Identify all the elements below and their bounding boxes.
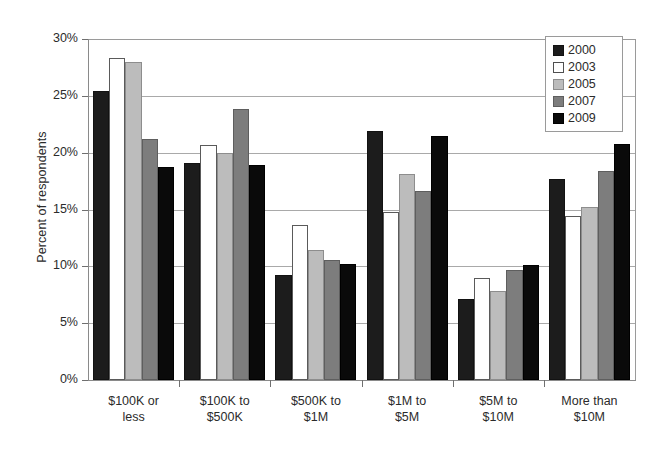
bar xyxy=(490,291,506,380)
y-axis-tick-label: 20% xyxy=(32,146,78,159)
x-axis-tick xyxy=(453,380,454,387)
legend-item[interactable]: 2000 xyxy=(553,42,616,58)
legend-item[interactable]: 2009 xyxy=(553,110,616,126)
y-axis-tick-label: 15% xyxy=(32,203,78,216)
x-axis-tick xyxy=(270,380,271,387)
x-axis-category-label: $100K to$500K xyxy=(179,394,270,425)
x-axis-category-label-line: More than xyxy=(544,394,635,410)
y-axis-tick-label: 0% xyxy=(32,373,78,386)
legend[interactable]: 20002003200520072009 xyxy=(545,36,623,132)
bar xyxy=(383,212,399,380)
x-axis-category-label-line: $10M xyxy=(544,410,635,426)
y-axis-tick-label: 10% xyxy=(32,259,78,272)
bar xyxy=(275,275,291,380)
x-axis-category-label-line: $500K to xyxy=(270,394,361,410)
bar xyxy=(565,216,581,380)
bar xyxy=(581,207,597,380)
bar xyxy=(367,131,383,380)
legend-item-label: 2000 xyxy=(568,44,596,57)
bar xyxy=(200,145,216,380)
bar xyxy=(184,163,200,380)
x-axis-category-label-line: $1M to xyxy=(362,394,453,410)
bar xyxy=(431,136,447,380)
y-axis-tick-label: 30% xyxy=(32,32,78,45)
bar xyxy=(474,278,490,380)
legend-item[interactable]: 2005 xyxy=(553,76,616,92)
bar xyxy=(217,153,233,380)
bar xyxy=(523,265,539,380)
x-axis-category-label-line: $5M xyxy=(362,410,453,426)
y-axis-tick-label: 5% xyxy=(32,316,78,329)
x-axis-tick xyxy=(179,380,180,387)
x-axis-tick xyxy=(362,380,363,387)
x-axis-category-label: More than$10M xyxy=(544,394,635,425)
x-axis-category-label-line: $1M xyxy=(270,410,361,426)
legend-item[interactable]: 2003 xyxy=(553,59,616,75)
bar xyxy=(125,62,141,380)
bar xyxy=(292,225,308,380)
x-axis-category-label-line: $500K xyxy=(179,410,270,426)
legend-item-label: 2009 xyxy=(568,112,596,125)
legend-item-label: 2005 xyxy=(568,78,596,91)
legend-item[interactable]: 2007 xyxy=(553,93,616,109)
x-axis-category-label-line: $100K to xyxy=(179,394,270,410)
x-axis-category-label: $500K to$1M xyxy=(270,394,361,425)
legend-swatch-icon xyxy=(553,79,564,90)
bar xyxy=(142,139,158,380)
bar xyxy=(340,264,356,380)
bar xyxy=(249,165,265,380)
bar xyxy=(399,174,415,380)
bar xyxy=(598,171,614,380)
legend-swatch-icon xyxy=(553,113,564,124)
x-axis-category-label: $100K orless xyxy=(88,394,179,425)
x-axis-category-label-line: $5M to xyxy=(453,394,544,410)
bar xyxy=(109,58,125,380)
bar xyxy=(308,250,324,380)
x-axis-category-label-line: $10M xyxy=(453,410,544,426)
bar xyxy=(614,144,630,380)
bar xyxy=(506,270,522,380)
bar xyxy=(93,91,109,380)
bar xyxy=(458,299,474,380)
x-axis-category-label-line: $100K or xyxy=(88,394,179,410)
x-axis-category-label: $5M to$10M xyxy=(453,394,544,425)
legend-item-label: 2003 xyxy=(568,61,596,74)
legend-swatch-icon xyxy=(553,45,564,56)
bar xyxy=(324,260,340,380)
x-axis-category-label-line: less xyxy=(88,410,179,426)
x-axis-category-label: $1M to$5M xyxy=(362,394,453,425)
bar xyxy=(158,167,174,380)
bar xyxy=(233,109,249,380)
bar xyxy=(549,179,565,380)
legend-item-label: 2007 xyxy=(568,95,596,108)
y-axis-tick-label: 25% xyxy=(32,89,78,102)
legend-swatch-icon xyxy=(553,62,564,73)
bar-chart: Percent of respondents 0%5%10%15%20%25%3… xyxy=(0,0,662,455)
bar xyxy=(415,191,431,380)
legend-swatch-icon xyxy=(553,96,564,107)
x-axis-tick xyxy=(544,380,545,387)
